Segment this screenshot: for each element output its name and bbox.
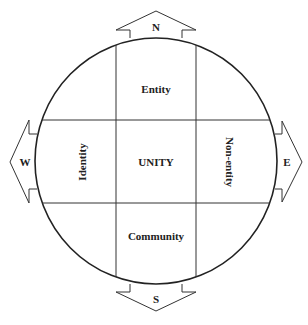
direction-south-label: S — [153, 293, 159, 305]
direction-east-label: E — [283, 156, 290, 168]
cell-east-non-entity: Non-entity — [224, 137, 236, 188]
direction-north-label: N — [152, 21, 160, 33]
direction-west-label: W — [20, 156, 31, 168]
unity-compass-diagram: N S W E Entity UNITY Community Identity … — [0, 0, 308, 325]
cell-south-community: Community — [128, 230, 185, 242]
cell-north-entity: Entity — [141, 83, 171, 95]
cell-center-unity: UNITY — [138, 156, 174, 168]
cell-west-identity: Identity — [76, 143, 88, 181]
